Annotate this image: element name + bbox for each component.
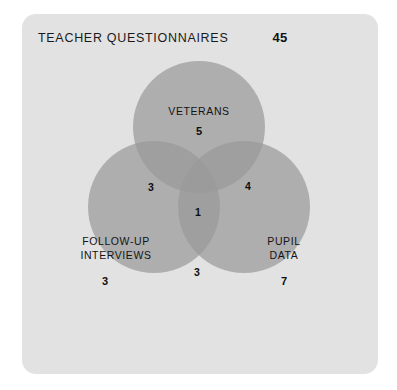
label-follow-up-line-1: FOLLOW-UP	[80, 234, 151, 248]
value-veterans-follow-up: 3	[148, 181, 154, 193]
label-veterans: VETERANS	[168, 104, 229, 118]
venn-diagram-figure: TEACHER QUESTIONNAIRES 45 VETERANS 5 FOL…	[0, 0, 397, 390]
value-follow-up-only: 3	[102, 275, 108, 287]
label-pupil-data: PUPIL DATA	[267, 234, 300, 262]
value-veterans-only: 5	[196, 125, 202, 137]
value-all-three: 1	[195, 206, 201, 218]
label-follow-up-interviews: FOLLOW-UP INTERVIEWS	[80, 234, 151, 262]
venn-circles	[0, 0, 397, 390]
label-follow-up-line-2: INTERVIEWS	[80, 248, 151, 262]
value-veterans-pupil-data: 4	[245, 180, 251, 192]
value-follow-up-pupil-data: 3	[194, 266, 200, 278]
label-pupil-data-line-2: DATA	[267, 248, 300, 262]
label-pupil-data-line-1: PUPIL	[267, 234, 300, 248]
label-veterans-line-1: VETERANS	[168, 104, 229, 118]
value-pupil-data-only: 7	[281, 275, 287, 287]
